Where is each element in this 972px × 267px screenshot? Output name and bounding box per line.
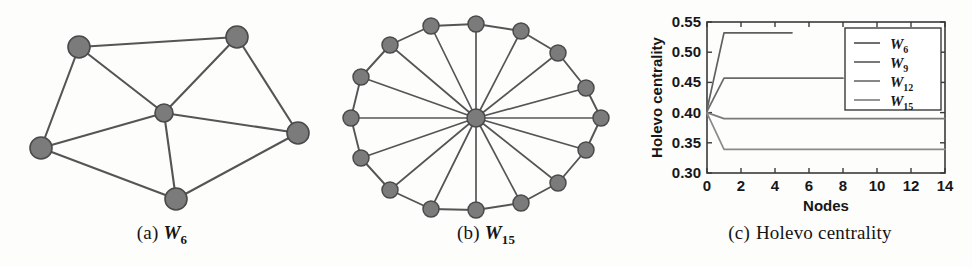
x-tick-label: 4 [771,177,780,194]
w6-node-group [30,26,309,210]
graph-spoke-edge [476,31,521,118]
x-tick-label: 14 [937,177,954,194]
caption-panel-c: (c)Holevo centrality [648,222,972,244]
legend-label-sub: 6 [903,44,908,55]
graph-node [513,23,529,39]
caption-math-a: W6 [158,222,187,243]
legend-label-sub: 12 [903,82,913,93]
graph-node [226,26,248,48]
graph-edge [79,37,237,47]
x-tick-label: 10 [869,177,886,194]
chart-legend: W6W9W12W15 [845,28,941,112]
graph-edge [237,37,298,133]
graph-spoke-edge [476,88,586,118]
graph-node [550,175,566,191]
graph-edge [41,47,79,148]
caption-math-b: W15 [480,222,515,243]
y-tick-label: 0.35 [672,134,701,151]
graph-spoke-edge [476,118,521,203]
graph-node [68,36,90,58]
y-tick-label: 0.30 [672,164,701,181]
graph-node [578,80,594,96]
caption-panel-b: (b)W15 [324,222,648,248]
caption-math-sub-b: 15 [502,232,515,247]
series-line-w6 [707,33,792,110]
y-axis-label: Holevo centrality [648,36,665,158]
graph-edge [176,133,298,199]
graph-node [578,142,594,158]
graph-hub-node [467,109,485,127]
y-tick-label: 0.50 [672,43,701,60]
caption-tag-c: (c) [728,222,750,243]
panel-wheel-w15: (b)W15 [324,0,648,267]
graph-edge [164,113,298,133]
x-tick-label: 12 [903,177,920,194]
graph-node [353,150,369,166]
x-axis-label: Nodes [803,197,849,214]
graph-node [593,110,609,126]
legend-label-sub: 9 [903,63,908,74]
caption-math-sub-a: 6 [181,232,188,247]
graph-node [382,182,398,198]
graph-spoke-edge [476,53,558,118]
legend-label-sub: 15 [903,101,913,112]
graph-node [353,69,369,85]
x-tick-label: 6 [805,177,813,194]
caption-tag-a: (a) [137,222,159,243]
graph-spoke-edge [390,118,476,190]
panel-wheel-w6: (a)W6 [0,0,324,267]
graph-spoke-edge [476,118,558,183]
caption-math-letter-a: W [163,222,180,243]
graph-node [165,188,187,210]
figure-root: (a)W6 (b)W15 024681012140.300.350.400.45… [0,0,972,267]
graph-node [30,137,52,159]
holevo-centrality-chart: 024681012140.300.350.400.450.500.55Nodes… [648,0,972,220]
graph-edge [79,47,164,113]
x-tick-label: 2 [737,177,745,194]
caption-panel-a: (a)W6 [0,222,324,248]
graph-node [468,202,484,218]
graph-node [513,195,529,211]
graph-node [423,18,439,34]
graph-node [343,110,359,126]
graph-node [287,122,309,144]
graph-node [550,45,566,61]
graph-node [468,16,484,32]
x-tick-label: 8 [839,177,847,194]
graph-edge [41,113,164,148]
graph-edge [164,37,237,113]
caption-text-c: Holevo centrality [750,222,892,243]
series-line-w9 [707,78,843,111]
x-tick-label: 0 [703,177,711,194]
graph-spoke-edge [390,45,476,118]
graph-edge [164,113,176,199]
series-line-w12 [707,113,945,119]
caption-math-letter-b: W [485,222,502,243]
panel-holevo-centrality: 024681012140.300.350.400.450.500.55Nodes… [648,0,972,267]
graph-node [423,201,439,217]
wheel-graph-w6 [0,0,324,220]
y-tick-label: 0.55 [672,13,701,30]
graph-hub-node [155,104,173,122]
graph-spoke-edge [476,118,586,150]
y-tick-label: 0.45 [672,73,701,90]
graph-node [382,37,398,53]
wheel-graph-w15 [324,0,648,220]
y-tick-label: 0.40 [672,104,701,121]
graph-edge [41,148,176,199]
caption-tag-b: (b) [457,222,480,243]
